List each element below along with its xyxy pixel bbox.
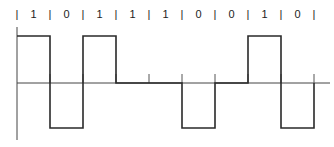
bit-label: 0 xyxy=(294,8,300,20)
bit-separator: | xyxy=(115,8,118,20)
bit-separator: | xyxy=(148,8,151,20)
bit-separator: | xyxy=(214,8,217,20)
bit-label: 1 xyxy=(96,8,102,20)
signal-waveform xyxy=(17,36,314,128)
bit-separator: | xyxy=(49,8,52,20)
bit-label: 0 xyxy=(195,8,201,20)
bit-label: 1 xyxy=(129,8,135,20)
bit-separator: | xyxy=(280,8,283,20)
bit-separator: | xyxy=(82,8,85,20)
waveform-diagram: |1|0|1|1|1|0|0|1|0| xyxy=(0,0,334,147)
bit-separator: | xyxy=(16,8,19,20)
bit-label: 1 xyxy=(162,8,168,20)
bit-label: 1 xyxy=(30,8,36,20)
bit-separator: | xyxy=(181,8,184,20)
bit-label: 1 xyxy=(261,8,267,20)
bit-separator: | xyxy=(247,8,250,20)
bit-label: 0 xyxy=(228,8,234,20)
bit-separator: | xyxy=(313,8,316,20)
bit-label: 0 xyxy=(63,8,69,20)
